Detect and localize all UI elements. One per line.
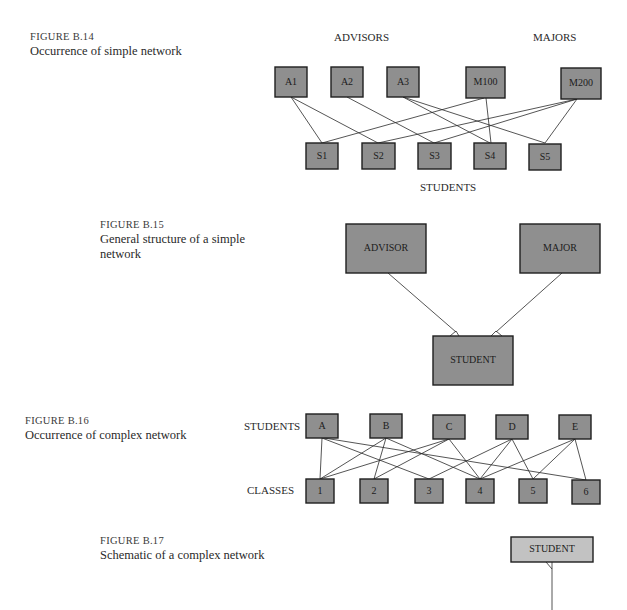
- edge-a1-s1: [291, 97, 322, 143]
- edge-a3-s4: [403, 97, 490, 143]
- edge-major-student: [496, 273, 562, 332]
- node-student-c: C: [433, 415, 465, 439]
- svg-text:ADVISOR: ADVISOR: [364, 242, 409, 253]
- diagram-canvas: ADVISORS MAJORS STUDENTS A1 A2 A3: [0, 0, 627, 610]
- svg-text:3: 3: [427, 485, 432, 496]
- node-s5: S5: [529, 144, 561, 170]
- edge-a1-s2: [291, 97, 378, 143]
- node-class-6: 6: [572, 480, 600, 504]
- edge-e-5: [533, 439, 575, 479]
- edge-advisor-student: [388, 273, 456, 332]
- group-label-students: STUDENTS: [420, 181, 476, 193]
- edge-a-6: [324, 438, 586, 480]
- figure-b15: ADVISOR MAJOR STUDENT: [346, 224, 600, 385]
- b16-edges: [320, 438, 586, 480]
- svg-text:2: 2: [372, 485, 377, 496]
- svg-text:C: C: [446, 421, 453, 432]
- node-class-3: 3: [415, 479, 443, 503]
- node-class-1: 1: [306, 479, 334, 503]
- svg-text:A2: A2: [341, 76, 353, 87]
- node-s3: S3: [418, 143, 451, 169]
- node-student-d: D: [496, 415, 528, 439]
- edge-m200-s5: [545, 99, 577, 143]
- edge-e-6: [575, 439, 586, 480]
- edge-a2-s3: [347, 97, 434, 143]
- group-label-majors: MAJORS: [533, 31, 576, 43]
- node-student-e: E: [559, 415, 591, 439]
- svg-text:A3: A3: [397, 76, 409, 87]
- figure-b14: ADVISORS MAJORS STUDENTS A1 A2 A3: [275, 31, 601, 193]
- node-a1: A1: [275, 67, 307, 97]
- svg-text:S2: S2: [373, 150, 384, 161]
- edge-m100-s1: [322, 98, 484, 143]
- svg-text:M100: M100: [474, 76, 498, 87]
- edge-a3-s5: [403, 97, 545, 143]
- crows-foot-icon: [546, 562, 552, 569]
- node-major: MAJOR: [520, 224, 600, 273]
- edge-m100-s4: [486, 98, 491, 143]
- node-s1: S1: [306, 143, 338, 169]
- edge-d-5: [512, 439, 533, 479]
- group-label-students: STUDENTS: [244, 420, 300, 432]
- node-s4: S4: [474, 143, 506, 169]
- figure-b16: STUDENTS CLASSES A B: [244, 414, 600, 504]
- crows-foot-icon: [450, 331, 459, 336]
- svg-text:A: A: [318, 420, 326, 431]
- svg-text:5: 5: [531, 485, 536, 496]
- svg-text:S5: S5: [540, 151, 551, 162]
- svg-text:B: B: [383, 420, 390, 431]
- node-a3: A3: [387, 67, 419, 97]
- node-student-b: B: [370, 414, 402, 438]
- group-label-advisors: ADVISORS: [334, 31, 389, 43]
- node-m100: M100: [466, 67, 505, 98]
- node-a2: A2: [331, 67, 363, 97]
- svg-text:STUDENT: STUDENT: [529, 543, 575, 554]
- svg-text:E: E: [572, 421, 578, 432]
- node-m200: M200: [561, 68, 601, 99]
- svg-text:STUDENT: STUDENT: [450, 354, 496, 365]
- svg-text:D: D: [508, 421, 515, 432]
- crows-foot-icon: [491, 331, 502, 336]
- node-class-2: 2: [360, 479, 388, 503]
- svg-text:A1: A1: [285, 76, 297, 87]
- edge-a-1: [320, 438, 322, 479]
- node-student: STUDENT: [433, 336, 513, 385]
- node-student: STUDENT: [511, 537, 593, 562]
- node-class-4: 4: [466, 479, 494, 503]
- figure-b17: STUDENT: [511, 537, 593, 610]
- svg-text:S3: S3: [429, 150, 440, 161]
- edge-d-4: [480, 439, 512, 479]
- svg-text:6: 6: [584, 486, 589, 497]
- node-advisor: ADVISOR: [346, 224, 426, 273]
- svg-text:S4: S4: [485, 150, 496, 161]
- svg-text:MAJOR: MAJOR: [543, 242, 577, 253]
- node-s2: S2: [362, 143, 395, 169]
- svg-text:4: 4: [478, 485, 483, 496]
- b14-edges: [291, 97, 577, 143]
- group-label-classes: CLASSES: [247, 484, 294, 496]
- node-class-5: 5: [519, 479, 547, 503]
- svg-text:M200: M200: [569, 77, 593, 88]
- edge-e-4: [480, 439, 575, 479]
- edge-d-3: [429, 439, 512, 479]
- node-student-a: A: [306, 414, 338, 438]
- svg-text:1: 1: [318, 485, 323, 496]
- svg-text:S1: S1: [317, 150, 328, 161]
